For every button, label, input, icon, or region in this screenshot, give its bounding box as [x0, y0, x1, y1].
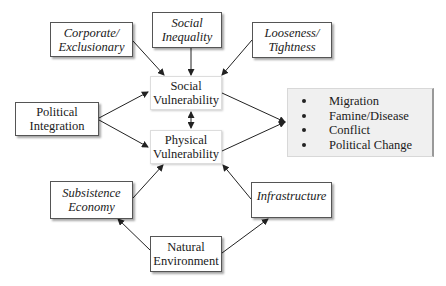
node-infrastructure: Infrastructure	[251, 182, 332, 218]
bullet-icon	[302, 143, 306, 147]
node-political-integration: PoliticalIntegration	[15, 102, 99, 136]
arrow-political-to-social	[99, 92, 148, 118]
node-label: Tightness	[265, 40, 320, 54]
node-label: Looseness/	[265, 26, 320, 40]
arrow-natural-to-infrastructure	[222, 219, 268, 253]
outcome-item: Political Change	[302, 138, 432, 153]
node-label: Vulnerability	[153, 147, 219, 161]
arrow-social-to-outcomes	[222, 93, 285, 122]
outcome-label: Political Change	[329, 138, 412, 152]
bullet-icon	[302, 128, 306, 132]
node-label: Physical	[153, 133, 219, 147]
node-label: Vulnerability	[153, 93, 219, 107]
arrow-infrastructure-to-physical	[223, 165, 251, 199]
outcome-label: Conflict	[329, 123, 370, 137]
node-label: Natural	[153, 240, 218, 254]
node-corporate-exclusionary: Corporate/Exclusionary	[50, 22, 133, 57]
node-label: Subsistence	[62, 186, 120, 200]
node-label: Political	[30, 105, 85, 119]
node-social-vulnerability: SocialVulnerability	[150, 76, 222, 110]
node-subsistence-economy: SubsistenceEconomy	[50, 181, 133, 219]
node-label: Social	[153, 79, 219, 93]
node-label: Inequality	[162, 30, 213, 44]
node-label: Environment	[153, 254, 218, 268]
outcome-item: Famine/Disease	[302, 109, 432, 124]
node-label: Economy	[62, 200, 120, 214]
arrow-subsistence-to-physical	[133, 165, 163, 198]
node-physical-vulnerability: PhysicalVulnerability	[150, 130, 222, 164]
outcome-item: Conflict	[302, 123, 432, 138]
arrow-looseness-to-social	[222, 40, 252, 75]
bullet-icon	[302, 99, 306, 103]
outcomes-box: Migration Famine/Disease Conflict Politi…	[287, 88, 434, 157]
node-social-inequality: SocialInequality	[152, 12, 222, 48]
node-label: Integration	[30, 119, 85, 133]
node-label: Infrastructure	[257, 189, 327, 203]
outcome-label: Migration	[329, 94, 379, 108]
arrow-political-to-physical	[99, 120, 148, 147]
bullet-icon	[302, 114, 306, 118]
outcome-label: Famine/Disease	[329, 109, 409, 123]
node-label: Corporate/	[59, 26, 125, 40]
node-label: Exclusionary	[59, 40, 125, 54]
node-natural-environment: NaturalEnvironment	[150, 236, 222, 272]
node-label: Social	[162, 16, 213, 30]
node-looseness-tightness: Looseness/Tightness	[252, 22, 332, 58]
outcome-item: Migration	[302, 94, 432, 109]
arrow-physical-to-outcomes	[222, 122, 285, 151]
arrow-natural-to-subsistence	[118, 219, 150, 250]
